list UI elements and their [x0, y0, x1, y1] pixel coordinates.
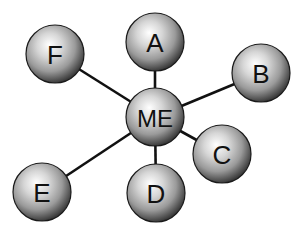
node-label: E — [33, 178, 50, 208]
node-a: A — [126, 13, 184, 71]
node-label: ME — [137, 105, 173, 132]
node-label: C — [213, 140, 232, 170]
node-d: D — [127, 164, 185, 222]
node-c: C — [193, 125, 251, 183]
node-label: F — [47, 40, 63, 70]
node-me: ME — [126, 88, 184, 146]
network-diagram: ABCDEFME — [0, 0, 304, 234]
nodes-group: ABCDEFME — [13, 13, 290, 222]
node-b: B — [232, 44, 290, 102]
node-e: E — [13, 163, 71, 221]
node-label: A — [146, 28, 164, 58]
node-label: D — [147, 179, 166, 209]
node-f: F — [26, 25, 84, 83]
node-label: B — [252, 59, 269, 89]
